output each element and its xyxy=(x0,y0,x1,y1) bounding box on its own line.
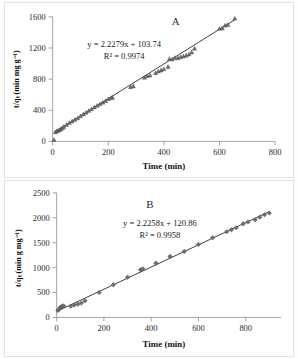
panel-b-x-ticks: 0 200 400 600 800 xyxy=(55,317,253,333)
data-point xyxy=(166,65,170,69)
data-point xyxy=(182,249,187,254)
panel-a-r-squared: R² = 0.9974 xyxy=(104,51,146,61)
panel-a-ytick-0: 0 xyxy=(42,136,46,146)
data-point xyxy=(111,283,116,288)
panel-a-xtick-200: 200 xyxy=(102,147,115,157)
panel-a-plot: 1600 1200 800 400 0 0 200 400 600 800 Ti xyxy=(5,3,293,177)
data-point xyxy=(224,229,229,234)
data-point xyxy=(162,67,166,71)
panel-b-x-axis-title: Time (min) xyxy=(143,339,186,349)
panel-b-ytick-0: 0 xyxy=(45,312,49,322)
data-point xyxy=(241,221,246,226)
panel-a-letter: A xyxy=(172,15,180,27)
panel-a-xtick-400: 400 xyxy=(158,147,171,157)
panel-b-y-axis-title: t/qₜ (min g mg⁻¹) xyxy=(14,229,23,287)
panel-b-xtick-800: 800 xyxy=(239,323,252,333)
panel-a-ytick-400: 400 xyxy=(33,105,46,115)
panel-b-ytick-2000: 2000 xyxy=(33,213,50,223)
chart-panel-b: 2500 2000 1500 1000 500 0 0 200 400 600 … xyxy=(4,180,294,357)
panel-a-data-points xyxy=(52,16,237,141)
panel-a-xtick-0: 0 xyxy=(51,147,55,157)
panel-b-ytick-1500: 1500 xyxy=(33,238,50,248)
panel-a-x-ticks: 0 200 400 600 800 xyxy=(51,141,282,157)
data-point xyxy=(154,261,159,266)
panel-b-ytick-500: 500 xyxy=(37,288,50,298)
panel-a-xtick-600: 600 xyxy=(213,147,226,157)
panel-a-equation: y = 2.2279x + 103.74 xyxy=(87,40,161,50)
chart-panel-a: 1600 1200 800 400 0 0 200 400 600 800 Ti xyxy=(4,2,294,178)
data-point xyxy=(131,84,135,88)
panel-b-letter: B xyxy=(146,198,153,210)
panel-a-ytick-1600: 1600 xyxy=(29,12,46,22)
panel-b-xtick-400: 400 xyxy=(145,323,158,333)
figure-container: 1600 1200 800 400 0 0 200 400 600 800 Ti xyxy=(0,0,298,359)
data-point xyxy=(253,217,258,222)
panel-b-xtick-600: 600 xyxy=(192,323,205,333)
panel-b-plot: 2500 2000 1500 1000 500 0 0 200 400 600 … xyxy=(5,181,293,356)
panel-b-r-squared: R² = 0.9958 xyxy=(140,230,181,240)
data-point xyxy=(233,16,237,20)
panel-b-ytick-2500: 2500 xyxy=(33,188,50,198)
panel-b-xtick-200: 200 xyxy=(98,323,111,333)
data-point xyxy=(267,211,272,216)
data-point xyxy=(190,50,194,54)
panel-b-ytick-1000: 1000 xyxy=(33,263,50,273)
data-point xyxy=(192,46,196,50)
panel-a-xtick-800: 800 xyxy=(269,147,282,157)
panel-a-x-axis-title: Time (min) xyxy=(143,161,186,171)
panel-b-y-ticks: 2500 2000 1500 1000 500 0 xyxy=(33,188,57,323)
panel-a-y-ticks: 1600 1200 800 400 0 xyxy=(29,12,53,147)
panel-b-equation: y = 2.2258x + 120.86 xyxy=(123,218,197,228)
panel-a-ytick-800: 800 xyxy=(33,74,46,84)
panel-b-xtick-0: 0 xyxy=(55,323,59,333)
data-point xyxy=(168,254,173,259)
panel-a-y-axis-title: t/qₜ (min mg g⁻¹) xyxy=(12,50,21,108)
panel-a-ytick-1200: 1200 xyxy=(29,43,46,53)
